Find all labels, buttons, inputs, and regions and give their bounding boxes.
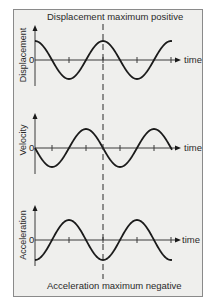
panel-acceleration xyxy=(33,205,182,266)
x-axis-arrow-icon xyxy=(175,238,181,243)
ylabel-velocity: Velocity xyxy=(18,115,28,165)
ylabel-displacement: Displacement xyxy=(18,20,28,90)
x-axis-arrow-icon xyxy=(175,146,181,151)
bottom-caption: Acceleration maximum negative xyxy=(47,280,182,291)
top-caption: Displacement maximum positive xyxy=(47,11,183,22)
y-axis-arrow-icon xyxy=(33,205,38,211)
time-label-displacement: time xyxy=(184,54,202,65)
panel-velocity xyxy=(33,113,182,174)
ylabel-acceleration: Acceleration xyxy=(18,200,28,270)
panel-displacement xyxy=(33,25,182,86)
y-axis-arrow-icon xyxy=(33,25,38,31)
zero-label-velocity: 0 xyxy=(29,142,34,153)
waveform-plot xyxy=(0,0,212,306)
time-label-velocity: time xyxy=(184,142,202,153)
y-axis-arrow-icon xyxy=(33,113,38,119)
zero-label-acceleration: 0 xyxy=(29,234,34,245)
zero-label-displacement: 0 xyxy=(29,54,34,65)
x-axis-arrow-icon xyxy=(175,58,181,63)
time-label-acceleration: time xyxy=(182,234,200,245)
